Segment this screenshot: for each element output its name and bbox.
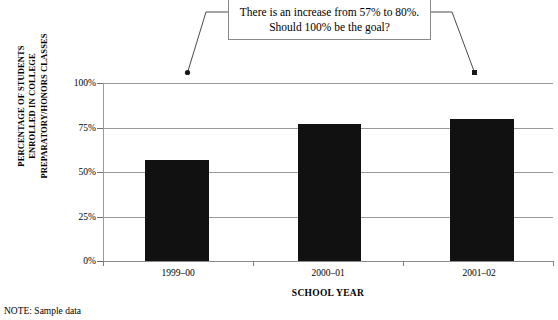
bar-1999-00 [145, 160, 209, 262]
x-tick-mark-3 [553, 261, 554, 266]
annotation-callout: There is an increase from 57% to 80%. Sh… [228, 0, 431, 40]
left-leader-line [188, 12, 228, 71]
gridline-100 [103, 83, 553, 84]
annotation-line-2: Should 100% be the goal? [269, 20, 390, 35]
x-tick-label-1999-00: 1999–00 [128, 268, 228, 279]
x-tick-mark-1 [253, 261, 254, 266]
x-tick-mark-2 [403, 261, 404, 266]
left-arrow-head [185, 70, 190, 75]
y-tick-label-100: 100% [36, 78, 96, 88]
x-tick-mark-0 [103, 261, 104, 266]
chart-note: NOTE: Sample data [4, 306, 81, 317]
bar-2001-02 [450, 119, 514, 261]
x-tick-label-2000-01: 2000–01 [278, 268, 378, 279]
x-axis-title: SCHOOL YEAR [103, 288, 553, 298]
y-axis-title-line-3: PREPARATORY/HONORS CLASSES [39, 33, 51, 178]
right-leader-line [431, 12, 474, 71]
plot-area [103, 83, 553, 261]
y-tick-label-50: 50% [36, 167, 96, 177]
y-tick-label-0: 0% [36, 256, 96, 266]
y-tick-label-25: 25% [36, 212, 96, 222]
chart-page: There is an increase from 57% to 80%. Sh… [0, 0, 558, 320]
bar-2000-01 [298, 124, 361, 261]
right-arrow-head [472, 70, 477, 75]
y-axis-title-line-2: ENROLLED IN COLLEGE [27, 33, 39, 178]
annotation-line-1: There is an increase from 57% to 80%. [240, 5, 419, 20]
y-tick-label-75: 75% [36, 123, 96, 133]
gridline-baseline [103, 261, 553, 262]
y-axis-title-line-1: PERCENTAGE OF STUDENTS [16, 33, 28, 178]
x-tick-label-2001-02: 2001–02 [429, 268, 529, 279]
